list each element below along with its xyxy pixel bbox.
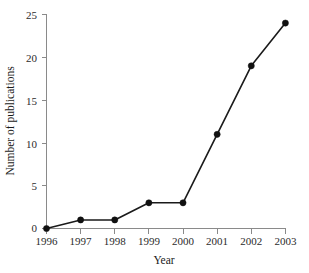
data-point-2002 [248,63,254,69]
x-axis-title: Year [153,254,174,266]
x-tick-label-2000: 2000 [172,235,195,247]
x-tick-label-1996: 1996 [36,235,59,247]
series-marker-group [43,20,288,232]
data-point-1999 [146,200,152,206]
y-axis-title: Number of publications [4,66,17,176]
y-tick-label-10: 10 [26,138,38,150]
data-point-2000 [180,200,186,206]
data-point-1997 [78,217,84,223]
publications-line-chart: 0 5 10 15 20 25 1996 1997 1998 1999 2000… [0,0,309,273]
y-tick-label-25: 25 [26,9,38,21]
chart-canvas: 0 5 10 15 20 25 1996 1997 1998 1999 2000… [0,0,309,273]
y-tick-label-20: 20 [26,52,38,64]
y-tick-label-15: 15 [26,95,38,107]
data-point-1996 [43,225,49,231]
x-tick-label-2002: 2002 [240,235,262,247]
y-tick-label-5: 5 [32,180,38,192]
x-tick-label-1998: 1998 [104,235,127,247]
x-tick-label-2001: 2001 [206,235,228,247]
y-tick-label-0: 0 [32,222,38,234]
x-tick-label-1999: 1999 [138,235,161,247]
data-series-publications [43,20,288,232]
series-line-publications [47,23,286,228]
data-point-1998 [112,217,118,223]
x-tick-label-2003: 2003 [274,235,297,247]
data-point-2003 [282,20,288,26]
x-tick-label-1997: 1997 [70,235,93,247]
data-point-2001 [214,131,220,137]
